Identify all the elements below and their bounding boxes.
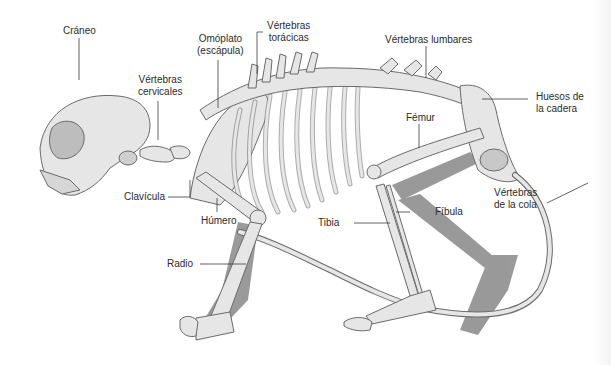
skeleton-illustration <box>0 0 611 365</box>
label-vertebras-toracicas: Vértebras torácicas <box>267 20 310 44</box>
label-femur: Fémur <box>406 112 435 124</box>
label-craneo: Cráneo <box>63 25 96 37</box>
bones <box>40 52 550 340</box>
label-line: Vértebras <box>138 74 182 86</box>
label-humero: Húmero <box>201 215 237 227</box>
edge-shading <box>593 0 611 365</box>
label-line: torácicas <box>267 32 310 44</box>
label-vertebras-cervicales: Vértebras cervicales <box>138 74 182 98</box>
label-line: Vértebras <box>494 187 537 199</box>
label-radio: Radio <box>167 258 193 270</box>
label-line: Omóplato <box>197 33 244 45</box>
label-clavicula: Clavícula <box>124 191 165 203</box>
label-line: de la cola <box>494 199 537 211</box>
label-huesos-cadera: Huesos de la cadera <box>536 91 584 115</box>
label-vertebras-lumbares: Vértebras lumbares <box>385 34 472 46</box>
label-line: la cadera <box>536 103 584 115</box>
label-line: Vértebras <box>267 20 310 32</box>
cat-skeleton-diagram: Cráneo Vértebras cervicales Omóplato (es… <box>0 0 611 365</box>
label-line: cervicales <box>138 86 182 98</box>
label-omoplato: Omóplato (escápula) <box>197 33 244 57</box>
label-tibia: Tibia <box>318 217 339 229</box>
label-line: Huesos de <box>536 91 584 103</box>
label-line: (escápula) <box>197 45 244 57</box>
label-vertebras-cola: Vértebras de la cola <box>494 187 537 211</box>
label-fibula: Fíbula <box>435 206 463 218</box>
